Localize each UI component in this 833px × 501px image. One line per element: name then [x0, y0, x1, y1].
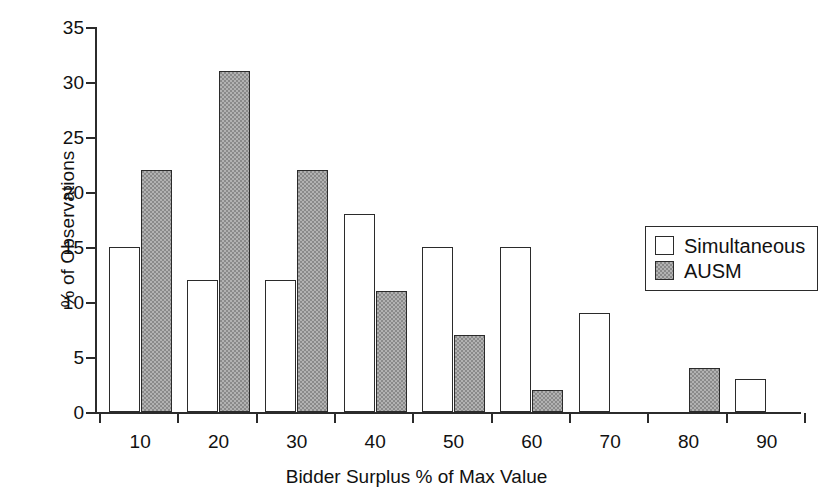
y-tick-label: 0 — [38, 403, 84, 422]
bar-ausm-30 — [297, 170, 328, 412]
legend-swatch-ausm — [655, 261, 674, 280]
y-tick-label: 15 — [38, 238, 84, 257]
y-tick-mark — [86, 82, 95, 84]
x-tick-mark — [99, 413, 101, 423]
x-tick-label: 10 — [105, 431, 175, 453]
legend-label-ausm: AUSM — [684, 261, 742, 281]
x-tick-mark — [804, 413, 806, 423]
x-tick-label: 40 — [340, 431, 410, 453]
bar-simultaneous-70 — [579, 313, 610, 412]
x-axis-line — [95, 412, 801, 414]
bar-chart-figure: % of Observations 05101520253035 1020304… — [0, 0, 833, 501]
y-tick-mark — [86, 247, 95, 249]
y-tick-label: 30 — [38, 73, 84, 92]
y-tick-mark — [86, 137, 95, 139]
bar-ausm-40 — [376, 291, 407, 412]
bar-simultaneous-30 — [265, 280, 296, 412]
x-axis-title: Bidder Surplus % of Max Value — [0, 466, 833, 488]
bar-simultaneous-40 — [344, 214, 375, 412]
plot-area: 102030405060708090 — [95, 27, 800, 412]
y-tick-mark — [86, 412, 95, 414]
bar-simultaneous-20 — [187, 280, 218, 412]
legend-swatch-simultaneous — [655, 236, 674, 255]
x-tick-mark — [412, 413, 414, 423]
y-tick-label: 20 — [38, 183, 84, 202]
x-tick-mark — [177, 413, 179, 423]
y-axis-tick-labels: 05101520253035 — [20, 0, 84, 501]
bar-ausm-80 — [689, 368, 720, 412]
x-tick-label: 70 — [575, 431, 645, 453]
y-axis-line — [95, 27, 97, 413]
y-tick-label: 10 — [38, 293, 84, 312]
y-tick-mark — [86, 27, 95, 29]
bar-simultaneous-10 — [109, 247, 140, 412]
x-tick-mark — [726, 413, 728, 423]
y-tick-mark — [86, 357, 95, 359]
x-tick-mark — [647, 413, 649, 423]
bar-ausm-50 — [454, 335, 485, 412]
legend: Simultaneous AUSM — [645, 226, 818, 291]
y-tick-label: 5 — [38, 348, 84, 367]
y-tick-mark — [86, 192, 95, 194]
bar-ausm-10 — [141, 170, 172, 412]
x-tick-label: 50 — [419, 431, 489, 453]
bar-ausm-20 — [219, 71, 250, 412]
legend-item-ausm: AUSM — [655, 258, 805, 283]
legend-label-simultaneous: Simultaneous — [684, 236, 805, 256]
x-tick-label: 80 — [654, 431, 724, 453]
x-tick-label: 60 — [497, 431, 567, 453]
bar-simultaneous-60 — [500, 247, 531, 412]
legend-item-simultaneous: Simultaneous — [655, 233, 805, 258]
x-tick-label: 90 — [732, 431, 802, 453]
y-tick-label: 35 — [38, 18, 84, 37]
y-tick-mark — [86, 302, 95, 304]
x-tick-label: 30 — [262, 431, 332, 453]
x-tick-mark — [569, 413, 571, 423]
y-tick-label: 25 — [38, 128, 84, 147]
x-tick-mark — [491, 413, 493, 423]
bar-simultaneous-90 — [735, 379, 766, 412]
bar-simultaneous-50 — [422, 247, 453, 412]
x-tick-mark — [334, 413, 336, 423]
bar-ausm-60 — [532, 390, 563, 412]
x-tick-label: 20 — [184, 431, 254, 453]
x-tick-mark — [256, 413, 258, 423]
